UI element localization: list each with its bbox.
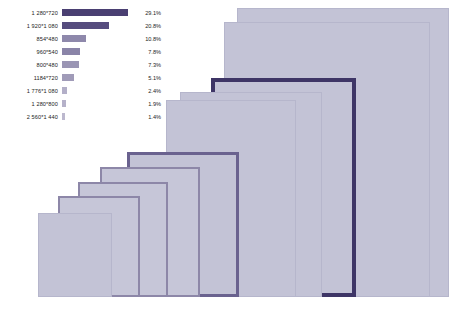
- legend-row: 2 560*1 4401.4%: [10, 110, 162, 123]
- resolution-label: 1 280*800: [10, 101, 62, 107]
- resolution-label: 800*480: [10, 62, 62, 68]
- percentage-value: 1.9%: [130, 101, 161, 107]
- legend-row: 1 280*8001.9%: [10, 97, 162, 110]
- bar: [62, 74, 74, 81]
- percentage-value: 29.1%: [130, 10, 161, 16]
- bar: [62, 61, 79, 68]
- percentage-value: 5.1%: [130, 75, 161, 81]
- bar: [62, 35, 86, 42]
- resolution-legend: 1 280*72029.1%1 920*1 08020.8%854*48010.…: [10, 6, 162, 123]
- bar: [62, 113, 65, 120]
- legend-row: 960*5407.8%: [10, 45, 162, 58]
- resolution-label: 1184*720: [10, 75, 62, 81]
- percentage-value: 1.4%: [130, 114, 161, 120]
- legend-row: 800*4807.3%: [10, 58, 162, 71]
- bar: [62, 22, 109, 29]
- resolution-rect: [38, 213, 112, 297]
- bar: [62, 9, 128, 16]
- resolution-label: 1 920*1 080: [10, 23, 62, 29]
- bar-track: [62, 61, 130, 68]
- bar-track: [62, 9, 130, 16]
- resolution-label: 1 280*720: [10, 10, 62, 16]
- legend-row: 1184*7205.1%: [10, 71, 162, 84]
- bar-track: [62, 74, 130, 81]
- resolution-label: 854*480: [10, 36, 62, 42]
- bar-track: [62, 113, 130, 120]
- legend-row: 1 776*1 0802.4%: [10, 84, 162, 97]
- bar: [62, 48, 80, 55]
- legend-row: 1 280*72029.1%: [10, 6, 162, 19]
- bar-track: [62, 22, 130, 29]
- bar-track: [62, 87, 130, 94]
- percentage-value: 10.8%: [130, 36, 161, 42]
- percentage-value: 7.8%: [130, 49, 161, 55]
- bar: [62, 100, 66, 107]
- legend-row: 1 920*1 08020.8%: [10, 19, 162, 32]
- bar-track: [62, 35, 130, 42]
- percentage-value: 7.3%: [130, 62, 161, 68]
- resolution-usage-chart: 1 280*72029.1%1 920*1 08020.8%854*48010.…: [0, 0, 454, 313]
- resolution-label: 2 560*1 440: [10, 114, 62, 120]
- resolution-label: 960*540: [10, 49, 62, 55]
- bar-track: [62, 48, 130, 55]
- bar: [62, 87, 67, 94]
- legend-row: 854*48010.8%: [10, 32, 162, 45]
- resolution-label: 1 776*1 080: [10, 88, 62, 94]
- bar-track: [62, 100, 130, 107]
- percentage-value: 2.4%: [130, 88, 161, 94]
- percentage-value: 20.8%: [130, 23, 161, 29]
